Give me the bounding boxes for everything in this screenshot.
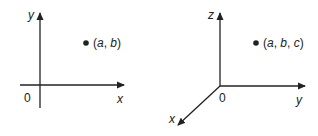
x-axis-label-3d: x: [169, 113, 175, 125]
coordinate-diagrams: [0, 0, 318, 136]
y-axis-label-2d: y: [28, 9, 34, 21]
point-3d-label: (a, b, c): [263, 37, 304, 49]
x-axis-label-2d: x: [117, 93, 123, 105]
origin-label-2d: 0: [24, 92, 31, 104]
point-3d-marker: [253, 40, 259, 46]
origin-label-3d: 0: [219, 92, 226, 104]
point-2d-marker: [83, 40, 89, 46]
z-axis-label-3d: z: [208, 9, 214, 21]
x-axis-3d: [178, 86, 220, 125]
diagram-2d: [20, 13, 124, 108]
point-2d-label: (a, b): [93, 37, 121, 49]
diagram-3d: [178, 13, 305, 125]
y-axis-label-3d: y: [296, 94, 302, 106]
